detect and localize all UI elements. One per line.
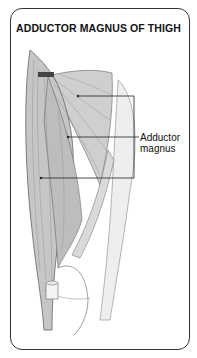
thigh-illustration [0,0,197,358]
label-adductor-magnus: Adductor magnus [140,132,180,154]
label-line-1: Adductor [140,132,180,143]
label-line-2: magnus [140,143,180,154]
